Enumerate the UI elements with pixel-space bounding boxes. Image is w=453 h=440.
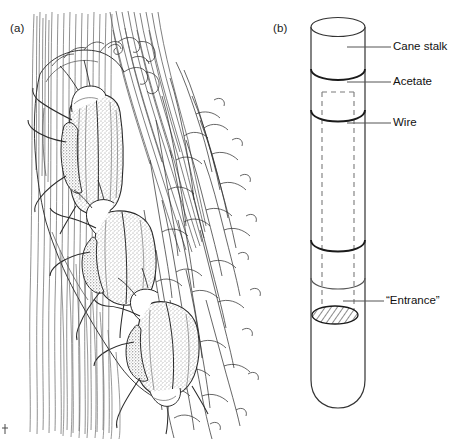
callout-label-wire: Wire [393,117,417,129]
entrance-hole [312,306,358,324]
callout-label-acetate: Acetate [393,76,432,88]
figure-container: (a) [0,0,453,440]
panel-b: (b) [265,0,453,440]
callout-label-entrance: “Entrance” [386,295,440,307]
cylinder-top-ellipse [311,18,365,37]
cylinder-body [311,27,365,408]
corner-tick-mark [2,424,8,434]
panel-a: (a) [0,0,265,440]
cane-stalk-trap-diagram [265,0,453,440]
callout-label-cane-stalk: Cane stalk [393,41,447,53]
beetle-on-cane-illustration [0,0,265,440]
